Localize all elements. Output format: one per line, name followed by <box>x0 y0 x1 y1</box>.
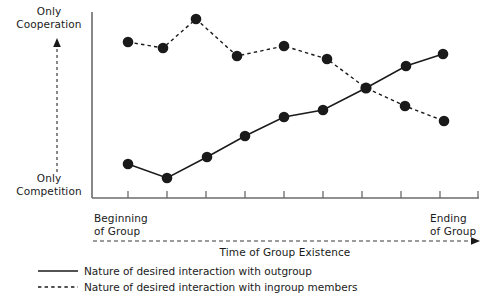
series-ingroup <box>123 14 450 127</box>
x-axis-start-label: Beginning of Group <box>94 212 148 237</box>
series-outgroup-point <box>162 173 173 184</box>
legend-item-ingroup: Nature of desired interaction with ingro… <box>84 281 357 294</box>
series-outgroup-point <box>202 152 213 163</box>
series-outgroup <box>123 49 449 184</box>
y-direction-arrow-icon <box>53 38 61 172</box>
series-outgroup-point <box>360 82 371 93</box>
series-outgroup-point <box>279 112 290 123</box>
series-ingroup-point <box>158 43 169 54</box>
series-outgroup-point <box>318 105 329 116</box>
series-outgroup-point <box>240 131 251 142</box>
y-axis-bottom-label: Only Competition <box>6 172 92 197</box>
series-outgroup-point <box>438 49 449 60</box>
series-outgroup-point <box>123 159 134 170</box>
series-ingroup-point <box>400 101 411 112</box>
series-ingroup-point <box>232 51 243 62</box>
legend-swatches <box>38 271 78 287</box>
series-ingroup-point <box>191 14 202 25</box>
series-ingroup-line <box>128 19 444 121</box>
plot-axes <box>92 12 479 198</box>
series-outgroup-point <box>401 61 412 72</box>
x-axis-title: Time of Group Existence <box>160 246 410 259</box>
y-axis-top-label: Only Cooperation <box>8 5 90 30</box>
series-ingroup-point <box>322 54 333 65</box>
x-direction-arrow-icon <box>93 237 480 245</box>
legend-item-outgroup: Nature of desired interaction with outgr… <box>84 265 312 278</box>
x-axis-end-label: Ending of Group <box>430 212 496 237</box>
series-ingroup-point <box>439 116 450 127</box>
series-ingroup-point <box>279 41 290 52</box>
chart-canvas <box>0 0 504 305</box>
series-ingroup-point <box>123 37 134 48</box>
